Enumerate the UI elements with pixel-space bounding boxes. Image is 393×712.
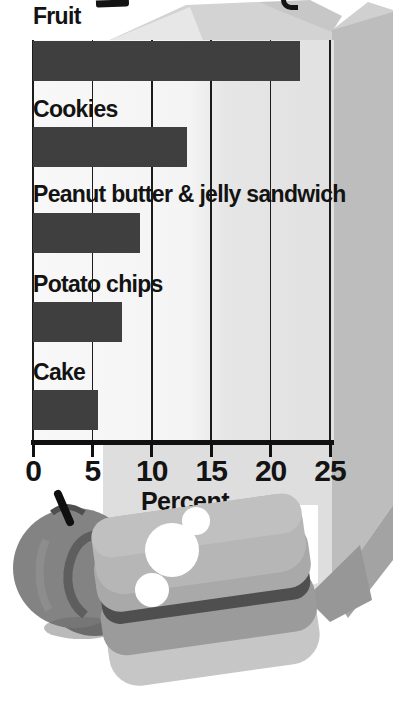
tick-label-20: 20 bbox=[255, 454, 286, 488]
tick-label-10: 10 bbox=[136, 454, 167, 488]
bar-label-fruit: Fruit bbox=[33, 3, 81, 30]
tick-label-15: 15 bbox=[196, 454, 227, 488]
bar-chart: 0510152025FruitCookiesPeanut butter & je… bbox=[0, 0, 393, 712]
bar-label-cake: Cake bbox=[33, 359, 85, 386]
screenshot-root: 0510152025FruitCookiesPeanut butter & je… bbox=[0, 0, 393, 712]
bar-peanut-butter-jelly-sandwich bbox=[33, 213, 140, 253]
tick-label-25: 25 bbox=[314, 454, 345, 488]
bar-cake bbox=[33, 390, 98, 430]
bar-fruit bbox=[33, 41, 300, 81]
bar-label-peanut-butter-jelly-sandwich: Peanut butter & jelly sandwich bbox=[33, 181, 346, 208]
tick-label-0: 0 bbox=[25, 454, 41, 488]
x-axis-line bbox=[31, 440, 334, 445]
gridline-15 bbox=[210, 40, 212, 441]
gridline-25 bbox=[329, 40, 331, 441]
bar-potato-chips bbox=[33, 302, 122, 342]
bar-label-potato-chips: Potato chips bbox=[33, 271, 163, 298]
x-axis-title: Percent bbox=[141, 487, 229, 516]
gridline-10 bbox=[151, 40, 153, 441]
gridline-20 bbox=[270, 40, 272, 441]
bar-cookies bbox=[33, 127, 187, 167]
bar-label-cookies: Cookies bbox=[33, 96, 118, 123]
tick-label-5: 5 bbox=[85, 454, 101, 488]
